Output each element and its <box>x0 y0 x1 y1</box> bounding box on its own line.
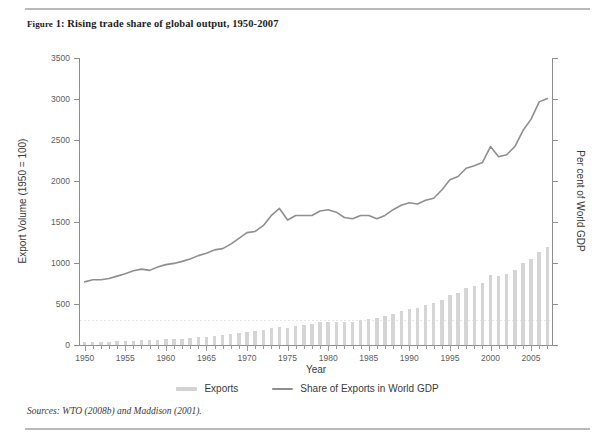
x-tick-label: 1965 <box>197 353 216 363</box>
x-tick-minor <box>93 345 94 349</box>
x-tick-major <box>450 345 451 351</box>
figure-page: Figure 1: Rising trade share of global o… <box>0 0 615 443</box>
x-tick-minor <box>141 345 142 349</box>
x-tick-minor <box>361 345 362 349</box>
x-axis-label: Year <box>306 364 326 375</box>
top-rule <box>25 8 590 10</box>
x-tick-minor <box>417 345 418 349</box>
line-series-share-of-exports <box>79 58 553 345</box>
x-tick-minor <box>109 345 110 349</box>
x-tick-major <box>125 345 126 351</box>
x-tick-major <box>206 345 207 351</box>
x-tick-minor <box>401 345 402 349</box>
figure-title: Figure 1: Rising trade share of global o… <box>27 18 279 29</box>
x-tick-minor <box>223 345 224 349</box>
x-tick-label: 2005 <box>522 353 541 363</box>
x-tick-label: 1995 <box>440 353 459 363</box>
x-tick-minor <box>434 345 435 349</box>
x-tick-major <box>166 345 167 351</box>
y-tick: 3000 <box>74 99 80 100</box>
y2-tick <box>552 58 558 59</box>
y-tick-label: 3500 <box>51 53 70 63</box>
x-tick-minor <box>499 345 500 349</box>
x-tick-minor <box>190 345 191 349</box>
x-tick-minor <box>523 345 524 349</box>
x-tick-minor <box>507 345 508 349</box>
figure-title-prefix: Figure <box>27 19 53 29</box>
y2-tick <box>552 181 558 182</box>
x-tick-minor <box>458 345 459 349</box>
x-tick-label: 1960 <box>156 353 175 363</box>
x-tick-minor <box>239 345 240 349</box>
x-tick-minor <box>466 345 467 349</box>
x-tick-label: 1990 <box>400 353 419 363</box>
y2-tick <box>552 304 558 305</box>
x-tick-minor <box>393 345 394 349</box>
y-tick-label: 3000 <box>51 94 70 104</box>
x-tick-label: 1950 <box>75 353 94 363</box>
y-tick: 2000 <box>74 181 80 182</box>
y2-tick <box>552 222 558 223</box>
x-tick-minor <box>101 345 102 349</box>
y-tick: 500 <box>74 304 80 305</box>
x-tick-minor <box>215 345 216 349</box>
legend-item-exports: Exports <box>176 383 238 394</box>
x-tick-major <box>491 345 492 351</box>
figure-title-rest: 1: Rising trade share of global output, … <box>53 18 279 29</box>
y-axis-label-left: Export Volume (1950 = 100) <box>17 139 28 264</box>
y-tick-label: 1000 <box>51 258 70 268</box>
y-axis-label-right: Per cent of World GDP <box>575 150 586 252</box>
x-tick-label: 1975 <box>278 353 297 363</box>
chart-area: Export Volume (1950 = 100) Per cent of W… <box>0 40 615 385</box>
x-tick-major <box>288 345 289 351</box>
x-tick-label: 1985 <box>359 353 378 363</box>
legend-swatch-bar-icon <box>176 387 197 391</box>
x-tick-minor <box>353 345 354 349</box>
y-tick-label: 0 <box>65 340 70 350</box>
x-tick-minor <box>158 345 159 349</box>
x-tick-minor <box>117 345 118 349</box>
y-tick: 3500 <box>74 58 80 59</box>
x-tick-label: 1980 <box>319 353 338 363</box>
x-tick-label: 1955 <box>116 353 135 363</box>
y-tick-label: 1500 <box>51 217 70 227</box>
legend-item-share-of-exports: Share of Exports in World GDP <box>272 383 438 394</box>
x-tick-minor <box>198 345 199 349</box>
x-tick-major <box>328 345 329 351</box>
x-tick-minor <box>263 345 264 349</box>
x-tick-minor <box>336 345 337 349</box>
y-tick-label: 2500 <box>51 135 70 145</box>
x-tick-minor <box>271 345 272 349</box>
x-tick-minor <box>231 345 232 349</box>
x-tick-minor <box>344 345 345 349</box>
x-tick-minor <box>312 345 313 349</box>
y-tick: 1500 <box>74 222 80 223</box>
x-tick-minor <box>304 345 305 349</box>
y2-tick <box>552 99 558 100</box>
x-tick-minor <box>255 345 256 349</box>
bottom-rule <box>25 428 590 430</box>
x-tick-label: 2000 <box>481 353 500 363</box>
x-tick-minor <box>442 345 443 349</box>
x-tick-major <box>369 345 370 351</box>
legend-label-share-of-exports: Share of Exports in World GDP <box>300 383 438 394</box>
legend-label-exports: Exports <box>204 383 238 394</box>
legend-swatch-line-icon <box>272 388 293 390</box>
x-tick-minor <box>474 345 475 349</box>
x-tick-label: 1970 <box>238 353 257 363</box>
chart-legend: Exports Share of Exports in World GDP <box>0 383 615 394</box>
y-tick-label: 2000 <box>51 176 70 186</box>
y2-tick <box>552 345 558 346</box>
x-tick-minor <box>150 345 151 349</box>
sources-note: Sources: WTO (2008b) and Maddison (2001)… <box>27 406 202 416</box>
x-tick-minor <box>547 345 548 349</box>
x-tick-major <box>85 345 86 351</box>
x-tick-minor <box>320 345 321 349</box>
x-tick-minor <box>539 345 540 349</box>
y-tick: 0 <box>74 345 80 346</box>
y2-tick <box>552 140 558 141</box>
x-tick-minor <box>377 345 378 349</box>
y-tick: 1000 <box>74 263 80 264</box>
y-tick: 2500 <box>74 140 80 141</box>
x-tick-minor <box>426 345 427 349</box>
